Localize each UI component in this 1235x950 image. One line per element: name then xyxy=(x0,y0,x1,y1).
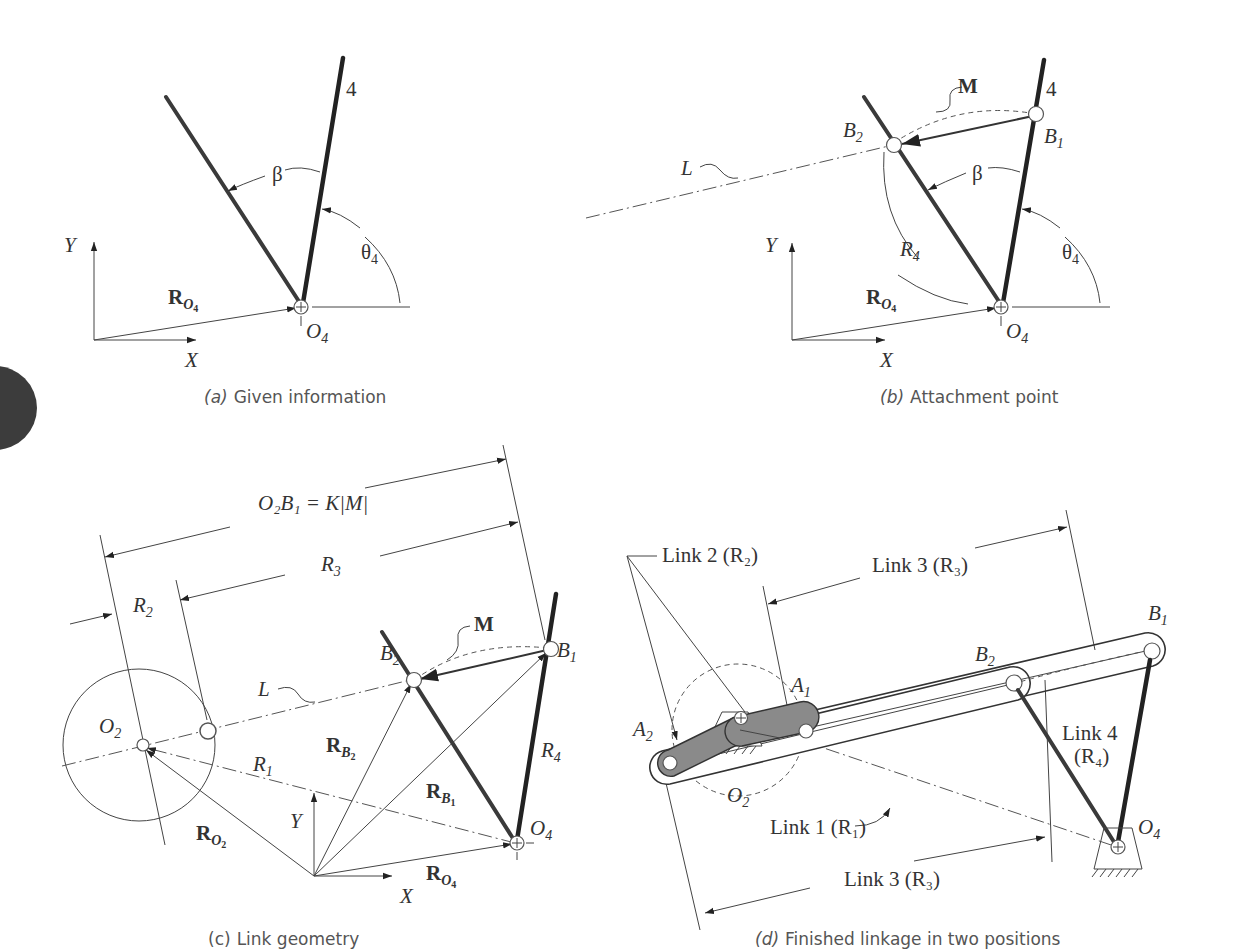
o2-extension-line xyxy=(100,535,165,845)
beta-arc-arrow-icon xyxy=(228,176,265,191)
r1-label: R1 xyxy=(252,752,273,779)
o2-label: O2 xyxy=(727,783,749,810)
m-label: M xyxy=(474,612,494,636)
link-number-label: 4 xyxy=(1046,77,1057,101)
beta-label: β xyxy=(272,162,283,186)
panel-c-link-geometry: O₂B₁ = K|M| R3 R2 M xyxy=(62,445,577,949)
r2-dim-arrow xyxy=(70,614,112,624)
a2-pin-icon xyxy=(663,756,677,770)
r-o4-label: RO4 xyxy=(426,861,456,890)
o4-label: O4 xyxy=(1138,815,1160,842)
b1-b2-arc xyxy=(895,111,1036,143)
link-4-first-position xyxy=(517,594,556,840)
r3-dim-arrow-left xyxy=(180,575,285,600)
b2-label: B2 xyxy=(975,642,995,669)
caption-b: (b)Attachment point xyxy=(880,387,1059,407)
o4-label: O4 xyxy=(530,816,552,843)
l-label: L xyxy=(680,156,693,180)
line-l xyxy=(62,680,410,766)
link3-top-label: Link 3 (R₃) xyxy=(872,553,968,577)
a1-pin-icon xyxy=(799,724,813,738)
link2-leader-a2 xyxy=(627,556,677,740)
b2-pin-icon xyxy=(407,673,422,688)
y-axis-label: Y xyxy=(765,233,779,257)
b1-pin-icon xyxy=(1144,643,1160,659)
r-b1-label: RB1 xyxy=(426,779,456,808)
theta-arc-arrow-icon xyxy=(1022,209,1060,228)
r2-label: R2 xyxy=(132,593,153,620)
page-edge-tab xyxy=(0,366,37,450)
link-number-label: 4 xyxy=(346,77,357,101)
link3-bottom-arrow-right xyxy=(914,837,1045,861)
link4-label-line1: Link 4 xyxy=(1062,721,1118,745)
b1-label: B1 xyxy=(557,638,577,665)
a2-label: A2 xyxy=(631,717,653,744)
r-o2-vector xyxy=(146,750,314,876)
x-axis-label: X xyxy=(184,348,199,372)
r-b2-vector xyxy=(314,684,411,876)
link2-leader-a1 xyxy=(627,556,754,724)
r4-label: R4 xyxy=(899,237,920,264)
b1-extension-line xyxy=(503,445,545,640)
r3-dim-arrow-right xyxy=(380,522,518,556)
theta-label: θ4 xyxy=(361,240,378,267)
link2-label: Link 2 (R₂) xyxy=(662,543,758,567)
o4-label: O4 xyxy=(306,319,328,346)
link-4-first-position xyxy=(303,58,343,303)
link1-label: Link 1 (R₁) xyxy=(770,815,866,839)
panel-b-attachment-point: 4 M B1 B2 L β R4 θ4 RO4 O4 X Y (b)Attach… xyxy=(586,60,1110,407)
caption-a: (a)Given information xyxy=(204,387,386,407)
r-o2-label: RO2 xyxy=(196,821,226,850)
theta-arc-arrow-icon xyxy=(322,209,360,228)
b2-label: B2 xyxy=(380,641,400,668)
y-axis-label: Y xyxy=(64,233,78,257)
panel-d-finished-linkage: Link 2 (R₂) Link 3 (R₃) Link 1 (R₁) Link… xyxy=(627,510,1168,949)
b1-pin-icon xyxy=(1029,107,1044,122)
link3-top-arrow-left xyxy=(768,578,860,604)
link3-bottom-arrow-left xyxy=(705,888,810,913)
b2-pin-icon xyxy=(887,138,902,153)
beta-arc-arrow-icon xyxy=(928,173,966,190)
link4-label-line2: (R₄) xyxy=(1074,744,1109,768)
beta-label: β xyxy=(972,161,983,185)
o2b1-dim-arrow-left xyxy=(105,527,230,557)
o4-label: O4 xyxy=(1006,319,1028,346)
caption-c: (c)Link geometry xyxy=(208,929,359,949)
four-bar-linkage-synthesis-figure: 4 β θ4 RO4 O4 X Y (a)Given information xyxy=(0,0,1235,950)
m-vector xyxy=(902,116,1033,144)
m-label: M xyxy=(958,74,978,98)
o2b1-dim-arrow-right xyxy=(365,459,506,488)
x-axis-label: X xyxy=(399,884,414,908)
a1-label: A1 xyxy=(789,673,811,700)
r-o4-vector xyxy=(314,844,512,876)
r-o4-label: RO4 xyxy=(168,285,198,314)
panel-a-given-information: 4 β θ4 RO4 O4 X Y (a)Given information xyxy=(64,58,410,407)
b2-label: B2 xyxy=(843,118,863,145)
l-label: L xyxy=(257,677,270,701)
theta-label: θ4 xyxy=(1062,240,1079,267)
o2-label: O2 xyxy=(99,714,121,741)
link-4-second-position xyxy=(166,97,300,303)
r2-extension-line xyxy=(176,580,207,720)
r4-label: R4 xyxy=(540,738,561,765)
b1-label: B1 xyxy=(1148,601,1168,628)
r-b2-label: RB2 xyxy=(326,733,356,762)
link3-top-arrow-right xyxy=(975,527,1067,548)
link-4-first-position xyxy=(1003,60,1044,303)
b2-pin-icon xyxy=(1006,675,1022,691)
line-l xyxy=(586,145,893,218)
a-pin-icon xyxy=(200,723,216,739)
caption-d: (d)Finished linkage in two positions xyxy=(755,929,1061,949)
link3-bottom-label: Link 3 (R₃) xyxy=(844,867,940,891)
link-4-second-position xyxy=(382,632,514,840)
r-o4-label: RO4 xyxy=(866,285,896,314)
r3-label: R3 xyxy=(320,552,341,579)
o2b1-equation-label: O₂B₁ = K|M| xyxy=(258,491,368,515)
x-axis-label: X xyxy=(879,348,894,372)
o2-pivot-icon xyxy=(137,739,149,751)
b1-label: B1 xyxy=(1044,124,1064,151)
y-axis-label: Y xyxy=(290,809,304,833)
